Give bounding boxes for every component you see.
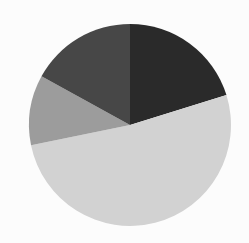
pie-chart [0, 0, 249, 243]
pie-slices [29, 24, 231, 226]
